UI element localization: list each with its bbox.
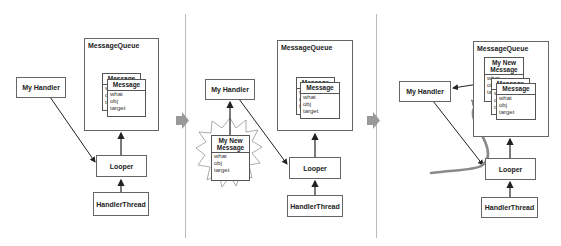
message-card-front: Message what obj target	[496, 83, 536, 120]
my-handler-box-2: My Handler	[205, 79, 255, 100]
looper-box-2: Looper	[289, 157, 341, 179]
my-handler-box-1: My Handler	[16, 77, 66, 98]
looper-box-1: Looper	[96, 155, 147, 177]
new-message-card: My New Message what obj target	[211, 135, 250, 181]
step-arrow-1-icon	[176, 112, 189, 129]
message-queue-title: MessageQueue	[88, 42, 139, 49]
message-queue-title: MessageQueue	[477, 45, 528, 52]
looper-box-3: Looper	[485, 158, 536, 180]
step-arrow-2-icon	[367, 112, 380, 129]
handler-thread-box-1: HandlerThread	[93, 192, 149, 216]
my-handler-box-3: My Handler	[399, 81, 451, 102]
message-card-front: Message what obj target	[107, 79, 146, 117]
message-card-front: Message what obj target	[300, 82, 340, 119]
handler-thread-box-2: HandlerThread	[287, 195, 343, 217]
message-queue-title: MessageQueue	[281, 44, 332, 51]
handler-thread-box-3: HandlerThread	[481, 197, 538, 218]
